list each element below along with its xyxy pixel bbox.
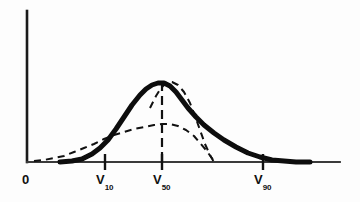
axis-label-v90: V90 <box>254 170 272 190</box>
figure-container: 0 V10 V50 V90 <box>0 0 360 202</box>
axis-label-v90-sub: 90 <box>263 183 272 192</box>
axis-label-v10: V10 <box>96 170 114 190</box>
axis-label-v50-base: V <box>153 172 162 187</box>
plot-canvas <box>0 0 360 202</box>
broad-distribution-dashed-curve <box>34 124 215 162</box>
axis-label-v90-base: V <box>254 172 263 187</box>
axis-label-v50: V50 <box>153 170 171 190</box>
axis-label-origin-text: 0 <box>22 172 29 187</box>
axis-label-v10-base: V <box>96 172 105 187</box>
axis-label-v50-sub: 50 <box>162 183 171 192</box>
axis-label-v10-sub: 10 <box>105 183 114 192</box>
axis-label-origin: 0 <box>22 170 29 188</box>
